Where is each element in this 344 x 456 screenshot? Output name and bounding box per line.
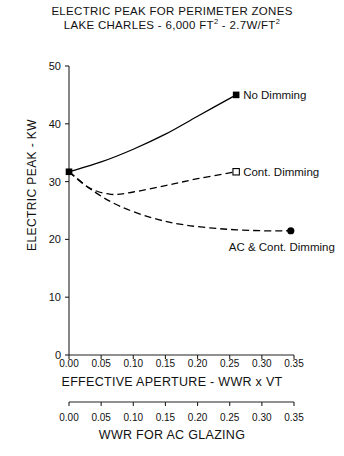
- x-axis-tick-label: 0.35: [284, 358, 303, 369]
- x-axis-tick-label: 0.25: [220, 412, 239, 423]
- y-axis-tick-label: 10: [33, 291, 61, 303]
- series-label-0: No Dimming: [243, 89, 306, 101]
- y-axis-tick-label: 50: [33, 60, 61, 72]
- y-axis-tick-label: 40: [33, 118, 61, 130]
- series-line-2: [69, 172, 291, 231]
- series-marker-0: [233, 92, 240, 99]
- series-line-1: [69, 172, 236, 195]
- x-axis-tick-label: 0.20: [188, 358, 207, 369]
- x-axis-tick-label: 0.10: [124, 412, 143, 423]
- series-marker-1: [233, 169, 239, 175]
- x-axis-tick-label: 0.00: [59, 358, 78, 369]
- series-line-0: [69, 95, 236, 172]
- y-axis-tick-label: 30: [33, 176, 61, 188]
- x-axis-tick-label: 0.15: [156, 358, 175, 369]
- series-label-1: Cont. Dimming: [243, 166, 319, 178]
- x-axis-title-secondary: WWR FOR AC GLAZING: [0, 428, 344, 442]
- x-axis-tick-label: 0.30: [252, 358, 271, 369]
- x-axis-tick-label: 0.15: [156, 412, 175, 423]
- x-axis-tick-label: 0.30: [252, 412, 271, 423]
- x-axis-tick-label: 0.05: [91, 358, 110, 369]
- x-axis-tick-label: 0.10: [124, 358, 143, 369]
- chart-figure: ELECTRIC PEAK FOR PERIMETER ZONES LAKE C…: [0, 0, 344, 456]
- x-axis-tick-labels-secondary: 0.000.050.100.150.200.250.300.35: [0, 412, 344, 426]
- y-axis-tick-label: 20: [33, 233, 61, 245]
- series-label-2: AC & Cont. Dimming: [229, 241, 335, 253]
- x-axis-tick-label: 0.35: [284, 412, 303, 423]
- series-marker-2: [287, 227, 294, 234]
- x-axis-tick-label: 0.00: [59, 412, 78, 423]
- x-axis-title-primary: EFFECTIVE APERTURE - WWR x VT: [0, 375, 344, 389]
- x-axis-tick-label: 0.05: [91, 412, 110, 423]
- x-axis-tick-label: 0.20: [188, 412, 207, 423]
- x-axis-tick-label: 0.25: [220, 358, 239, 369]
- x-axis-tick-labels-primary: 0.000.050.100.150.200.250.300.35: [0, 358, 344, 372]
